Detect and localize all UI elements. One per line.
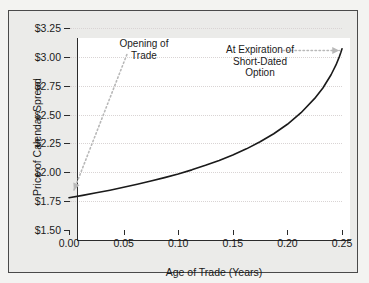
expiration-arrow-head bbox=[332, 47, 339, 54]
opening-arrow-head bbox=[73, 182, 79, 190]
annotation-arrows bbox=[9, 11, 369, 283]
y-axis-title: Price of Calendar Spread bbox=[31, 47, 43, 227]
annotation-at-expiration: At Expiration of Short-Dated Option bbox=[205, 44, 315, 79]
chart-figure: $1.50$1.75$2.00$2.25$2.50$2.75$3.00$3.25… bbox=[0, 0, 369, 283]
x-axis-title: Age of Trade (Years) bbox=[77, 266, 351, 278]
opening-arrow-line bbox=[74, 55, 127, 191]
annotation-opening-of-trade: Opening of Trade bbox=[107, 38, 181, 61]
chart-frame: $1.50$1.75$2.00$2.25$2.50$2.75$3.00$3.25… bbox=[8, 10, 358, 273]
